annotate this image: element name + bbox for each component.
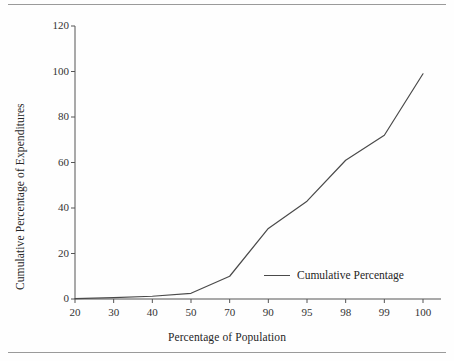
x-tick-label: 98 [326, 306, 366, 318]
x-tick-label: 95 [287, 306, 327, 318]
y-tick-label: 80 [35, 110, 69, 122]
x-tick-label: 50 [171, 306, 211, 318]
y-tick-label: 20 [35, 247, 69, 259]
figure-container: Cumulative Percentage of Expenditures Pe… [0, 0, 454, 361]
x-tick-label: 100 [403, 306, 443, 318]
x-tick-label: 90 [248, 306, 288, 318]
y-axis-title: Cumulative Percentage of Expenditures [14, 103, 26, 290]
legend-label: Cumulative Percentage [297, 269, 404, 281]
x-tick-label: 20 [55, 306, 95, 318]
data-series-group [75, 74, 423, 299]
axes-group [71, 26, 441, 303]
y-axis-ticks [71, 26, 75, 299]
x-tick-label: 40 [132, 306, 172, 318]
y-tick-label: 120 [35, 19, 69, 31]
y-tick-label: 60 [35, 156, 69, 168]
y-tick-label: 0 [35, 292, 69, 304]
x-tick-label: 99 [364, 306, 404, 318]
legend-line-swatch-icon [264, 275, 290, 276]
series-line-cumulative-percentage [75, 74, 423, 299]
y-tick-label: 40 [35, 201, 69, 213]
x-tick-label: 70 [210, 306, 250, 318]
x-tick-label: 30 [94, 306, 134, 318]
chart-legend: Cumulative Percentage [264, 269, 404, 281]
x-axis-title: Percentage of Population [0, 331, 454, 343]
y-tick-label: 100 [35, 65, 69, 77]
x-axis-ticks [75, 299, 423, 303]
